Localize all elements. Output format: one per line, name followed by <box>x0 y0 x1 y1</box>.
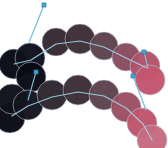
blob-lower-chain-4 <box>63 75 93 105</box>
marker-mid-left[interactable] <box>34 70 38 74</box>
marker-top-left[interactable] <box>42 3 46 7</box>
scatter-chain-plot <box>0 0 168 148</box>
marker-mid-right[interactable] <box>131 74 135 78</box>
marker-top-right[interactable] <box>142 50 146 54</box>
visualization-canvas <box>0 0 168 148</box>
blob-upper-chain-8 <box>135 65 165 95</box>
